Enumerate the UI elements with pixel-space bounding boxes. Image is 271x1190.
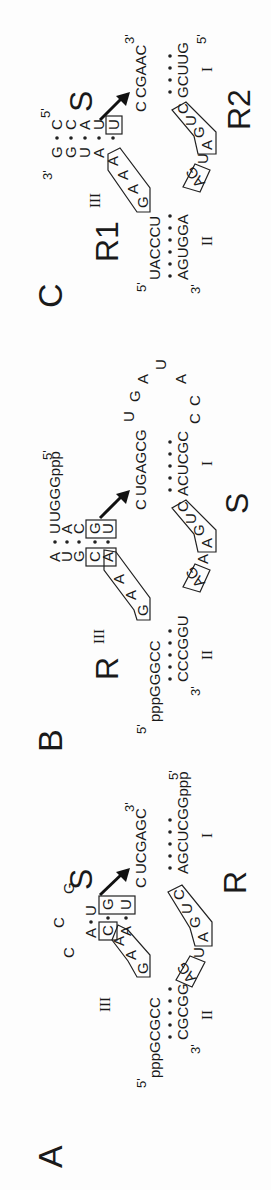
linker-u: U — [194, 153, 211, 164]
svg-text:C: C — [186, 395, 203, 406]
five-prime-label: 5' — [134, 282, 149, 292]
svg-text:G: G — [134, 962, 151, 974]
helix-label-iii: III — [97, 997, 113, 1012]
five-prime-label: 5' — [38, 108, 53, 118]
helix-ii-pairs — [168, 629, 172, 681]
panel-label-b: B — [31, 729, 69, 752]
helix-iii-a2: A — [117, 926, 134, 936]
substrate-stem-bottom: AGCUCGGppp — [174, 771, 191, 874]
cleavage-arrow-icon — [100, 868, 130, 895]
strand-label-s: S — [63, 869, 99, 890]
svg-text:G: G — [190, 126, 207, 138]
core-box-aguc: A G U C — [172, 102, 216, 154]
helix-iii-a1: A — [82, 928, 99, 938]
cleavage-site-c: C — [132, 877, 149, 888]
helix-i-bottom: ACUCGC — [174, 431, 191, 496]
panel-label-c: C — [31, 283, 69, 308]
svg-text:U: U — [182, 115, 199, 126]
helix-i-pairs — [168, 818, 172, 870]
five-prime-label: 5' — [40, 450, 55, 460]
svg-text:U: U — [120, 411, 137, 422]
helix-iii-c: C — [99, 925, 116, 936]
svg-text:C: C — [174, 103, 191, 114]
helix-iii-top-tail: UGGGppp — [46, 451, 63, 522]
svg-text:A: A — [198, 140, 215, 150]
helix-label-i: I — [199, 67, 215, 72]
core-box-gaaa: G A A A — [104, 148, 151, 212]
strand-label-r1: R1 — [89, 221, 125, 262]
helix-iii-u2-right: U — [99, 523, 116, 534]
svg-text:A: A — [124, 184, 141, 194]
strand-label-r: R — [89, 657, 125, 680]
loop-iii-c2: C — [50, 917, 67, 928]
three-prime-label: 3' — [188, 1044, 203, 1054]
ribozyme-5prime-seq: pppGGGCC — [146, 640, 163, 722]
panel-b: B 5' pppGGGCC CCCGGU 3' II III R G A A A… — [31, 359, 255, 752]
ribozyme-5prime-seq: pppGCGCC — [146, 997, 163, 1078]
svg-text:G: G — [134, 604, 151, 616]
helix-i-top: CGAAC — [132, 44, 149, 98]
helix-label-ii: II — [199, 650, 215, 660]
svg-text:A: A — [114, 170, 131, 180]
strand-label-s: S — [63, 91, 99, 112]
helix-iii-a: A — [90, 148, 107, 158]
core-box-aguc: A G U C — [168, 885, 212, 946]
svg-text:G: G — [190, 524, 207, 536]
strand-label-r: R — [217, 871, 253, 894]
helix-label-ii: II — [199, 1010, 215, 1020]
svg-text:C: C — [170, 889, 187, 900]
helix-label-i: I — [199, 833, 215, 838]
cleavage-site-c: C — [132, 101, 149, 112]
strand-label-s: S — [219, 493, 255, 514]
helix-ii-bottom: CCCGGU — [174, 615, 191, 682]
strand-label-r2: R2 — [221, 89, 257, 130]
helix-iii-g: G — [99, 898, 116, 910]
helix-ii-pairs — [168, 214, 172, 278]
svg-text:G: G — [126, 390, 143, 402]
svg-text:A: A — [194, 932, 211, 942]
helix-ii-pairs — [168, 987, 172, 1039]
helix-label-iii: III — [91, 629, 107, 644]
helix-iii-pairs — [53, 540, 110, 544]
helix-iii-a2: A — [99, 552, 116, 562]
five-prime-label: 5' — [134, 724, 149, 734]
r1-seq: UACCCU — [146, 216, 163, 280]
three-prime-label: 3' — [188, 686, 203, 696]
substrate-stem-top: UCGAGC — [132, 808, 149, 874]
panel-c: C 5' UACCCU AGUGGA 3' II III R1 G A A A … — [31, 34, 257, 308]
helix-iii-u1: U — [82, 905, 99, 916]
ribozyme-figure: A 5' pppGCGCC CGCGG 3' II III G A A C C … — [0, 0, 271, 1190]
svg-text:A: A — [198, 538, 215, 548]
three-prime-label: 3' — [40, 170, 55, 180]
core-box-ag: AG — [182, 564, 210, 592]
core-box-aguc: A G U C — [172, 500, 216, 552]
helix-i-bottom: GCUUG — [174, 42, 191, 98]
svg-text:U: U — [178, 903, 195, 914]
linker-a: A — [194, 554, 211, 564]
svg-text:U: U — [182, 513, 199, 524]
loop-i: U G A U A C C — [120, 359, 203, 424]
helix-label-iii: III — [87, 193, 103, 208]
svg-text:G: G — [186, 916, 203, 928]
helix-i-top: UGAGCG — [132, 429, 149, 496]
svg-text:C: C — [186, 413, 203, 424]
r2-seq: AGUGGA — [174, 214, 191, 280]
svg-text:U: U — [152, 359, 169, 370]
cleavage-site-c: C — [132, 499, 149, 510]
svg-text:A: A — [122, 590, 139, 600]
ribozyme-3prime-arm: CGCGG — [174, 983, 191, 1040]
helix-iii-u2: U — [117, 899, 134, 910]
panel-label-a: A — [31, 1145, 69, 1168]
loop-iii-c1: C — [60, 947, 77, 958]
svg-text:A: A — [110, 936, 127, 946]
svg-text:A: A — [134, 374, 151, 384]
svg-text:G: G — [134, 196, 151, 208]
helix-i-pairs — [168, 440, 172, 492]
helix-label-i: I — [199, 461, 215, 466]
helix-iii-pairs — [55, 136, 115, 140]
cleavage-arrow-icon — [100, 490, 130, 518]
boxed-u: U — [105, 119, 122, 130]
three-prime-label: 3' — [122, 802, 137, 812]
svg-text:A: A — [122, 950, 139, 960]
core-box-ag: AG — [182, 164, 210, 192]
